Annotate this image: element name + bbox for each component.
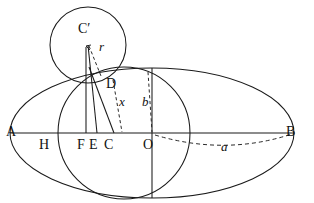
figure-canvas: [0, 0, 314, 203]
label-point-h: H: [39, 138, 49, 152]
label-semi-minor-b: b: [142, 95, 149, 108]
label-point-o: O: [143, 138, 153, 152]
label-semi-major-a: a: [221, 140, 228, 153]
label-point-d: D: [106, 77, 116, 91]
label-point-e: E: [89, 138, 98, 152]
label-center-c-prime: C′: [78, 22, 90, 36]
label-point-f: F: [77, 138, 85, 152]
geometry-figure: A B H F E C O D C′ r x b a: [0, 0, 314, 203]
label-radius-r: r: [99, 40, 104, 53]
label-segment-x: x: [119, 95, 125, 108]
label-point-c: C: [104, 138, 113, 152]
label-vertex-b: B: [286, 125, 295, 139]
segment-cprime-to-e: [88, 45, 97, 133]
label-vertex-a: A: [6, 125, 16, 139]
